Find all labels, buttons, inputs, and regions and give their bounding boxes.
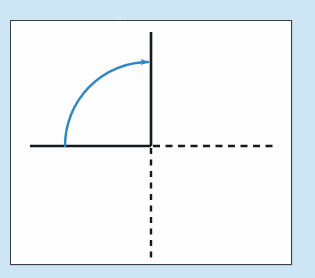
rotation-arc — [65, 62, 148, 146]
rotation-diagram — [0, 0, 315, 278]
figure-root — [0, 0, 315, 278]
